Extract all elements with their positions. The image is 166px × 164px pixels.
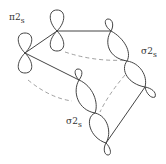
pi-orbital-left-lower-lobe: [18, 53, 32, 73]
orbital-diagram: [0, 0, 166, 164]
sigma-middle-large-lobe: [76, 80, 96, 113]
pi-orbital-top-upper-lobe: [50, 10, 64, 31]
sigma-top-large-lobe: [108, 31, 129, 61]
orbital-lobes: [18, 10, 155, 155]
sigma-top-small-lobe: [105, 19, 112, 31]
sigma-2s-right-label: σ2s: [141, 47, 157, 58]
sigma-bottom-large-lobe: [89, 113, 108, 143]
sigma-2s-bottom-label: σ2s: [66, 117, 82, 128]
pi-2s-label: π2s: [9, 13, 25, 24]
sigma-right-small-lobe: [145, 87, 155, 97]
sigma-bottom-small-lobe: [104, 143, 110, 155]
sigma-right-large-lobe: [124, 61, 145, 87]
